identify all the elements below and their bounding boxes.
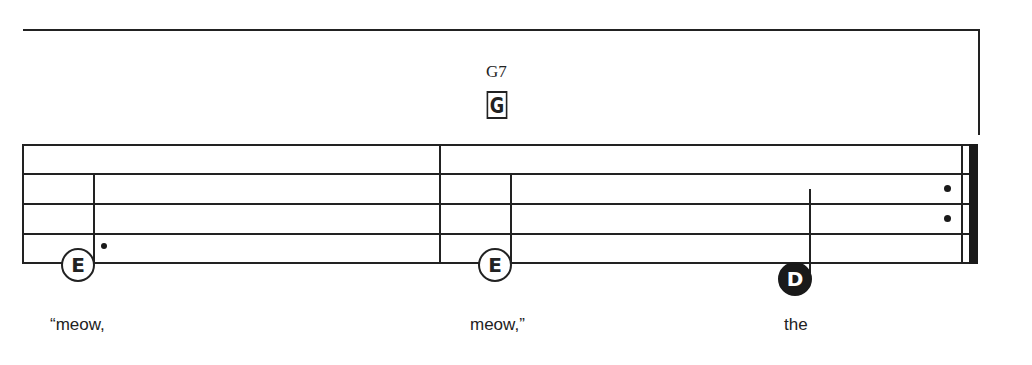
staff-line — [22, 144, 978, 146]
augmentation-dot — [101, 243, 107, 249]
repeat-dot — [944, 185, 951, 192]
note-head-e: E — [478, 248, 512, 282]
note-stem — [93, 174, 95, 264]
barline-thick-end — [969, 144, 978, 264]
barline-thin-end — [961, 144, 963, 264]
lyric-syllable: meow,” — [470, 315, 525, 335]
chord-box: G — [484, 91, 510, 119]
lyric-syllable: the — [784, 315, 808, 335]
barline-middle — [439, 144, 441, 264]
barline-start — [22, 144, 24, 264]
chord-name: G7 — [486, 62, 507, 82]
chord-box-letter: G — [487, 91, 508, 119]
staff-line — [22, 173, 978, 175]
bracket-right-line — [978, 29, 980, 135]
staff-line — [22, 233, 978, 235]
note-stem — [510, 174, 512, 264]
bracket-top-line — [23, 29, 979, 31]
repeat-dot — [944, 215, 951, 222]
lyric-syllable: “meow, — [50, 315, 105, 335]
note-head-d: D — [778, 262, 812, 296]
note-head-e: E — [61, 248, 95, 282]
note-stem — [809, 189, 811, 273]
staff-line — [22, 203, 978, 205]
